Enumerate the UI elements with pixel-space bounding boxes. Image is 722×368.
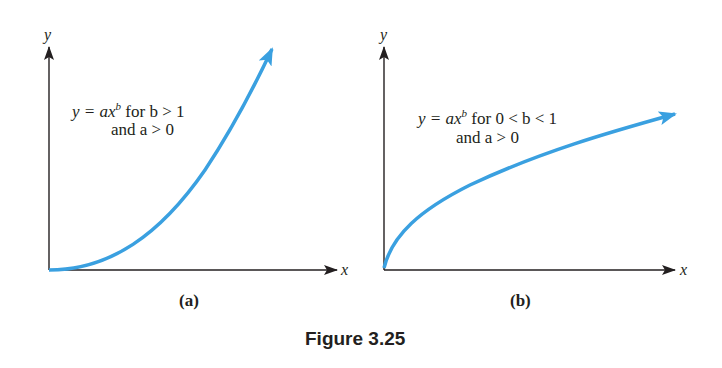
y-axis-label-a: y — [42, 26, 52, 44]
panel-label-a: (a) — [179, 291, 199, 310]
y-axis-label-b: y — [378, 26, 388, 44]
equation-a-line2: and a > 0 — [111, 120, 174, 139]
panel-b: y x y = axb for 0 < b < 1 and a > 0 (b) — [378, 26, 687, 310]
equation-b-line2: and a > 0 — [456, 128, 519, 147]
panel-label-b: (b) — [510, 291, 531, 310]
figure-caption: Figure 3.25 — [305, 328, 406, 349]
panel-a: y x y = axb for b > 1 and a > 0 (a) — [42, 26, 348, 310]
x-axis-label-b: x — [679, 261, 687, 278]
power-curve-b — [384, 114, 675, 268]
equation-a-line1: y = axb for b > 1 — [70, 100, 184, 121]
equation-b-line1: y = axb for 0 < b < 1 — [416, 107, 557, 128]
x-axis-label-a: x — [340, 261, 348, 278]
power-curve-a — [49, 49, 272, 270]
